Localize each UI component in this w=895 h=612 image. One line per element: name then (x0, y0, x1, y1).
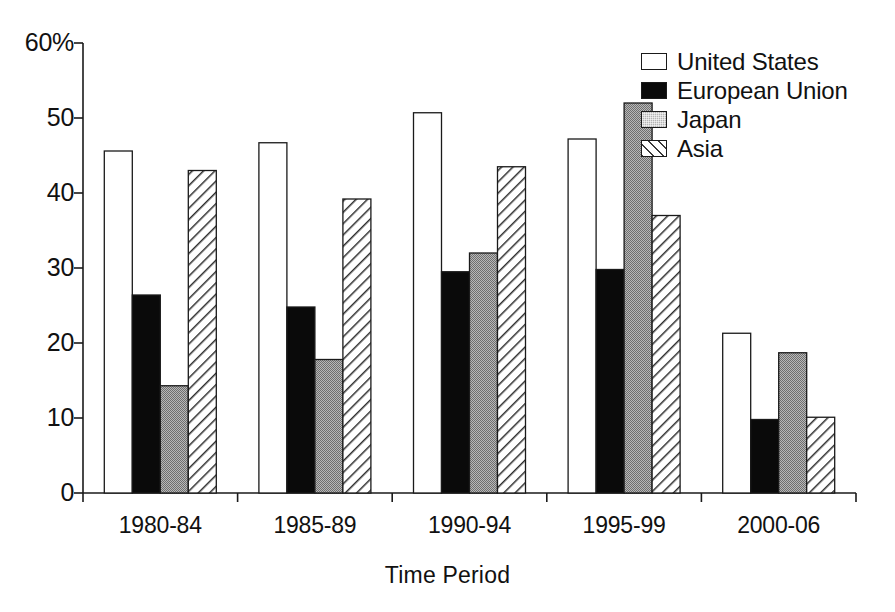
bar-asia-1995-99 (652, 216, 680, 494)
x-axis-tick-label: 1980-84 (83, 514, 238, 537)
bar-united-states-1985-89 (259, 143, 287, 493)
legend-label: Japan (677, 108, 741, 132)
bar-japan-1990-94 (470, 253, 498, 493)
legend-item-japan: Japan (641, 105, 891, 134)
chart-legend: United StatesEuropean UnionJapanAsia (641, 47, 891, 163)
bar-european-union-1980-84 (132, 295, 160, 493)
bar-chart: 60%50403020100 1980-841985-891990-941995… (0, 0, 895, 612)
legend-label: Asia (677, 137, 723, 161)
bar-asia-1985-89 (343, 199, 371, 493)
legend-swatch-solid-black (641, 82, 667, 99)
legend-swatch-diagonal-hatch (641, 140, 667, 157)
bar-united-states-1990-94 (414, 113, 442, 493)
bar-united-states-1995-99 (568, 139, 596, 493)
bar-japan-1985-89 (315, 360, 343, 494)
bar-united-states-2000-06 (723, 333, 751, 493)
bar-european-union-1990-94 (442, 272, 470, 493)
bar-european-union-2000-06 (751, 420, 779, 494)
x-axis-tick-label: 1985-89 (238, 514, 393, 537)
x-axis-tick-label: 1990-94 (392, 514, 547, 537)
bar-asia-2000-06 (807, 417, 835, 493)
legend-item-asia: Asia (641, 134, 891, 163)
x-axis-tick-label: 2000-06 (701, 514, 856, 537)
legend-item-european-union: European Union (641, 76, 891, 105)
x-axis-tick-label: 1995-99 (547, 514, 702, 537)
legend-item-united-states: United States (641, 47, 891, 76)
legend-swatch-white-outline (641, 53, 667, 70)
bar-european-union-1985-89 (287, 307, 315, 493)
x-axis-title: Time Period (0, 562, 895, 589)
bar-asia-1990-94 (498, 167, 526, 493)
legend-swatch-gray-stipple (641, 111, 667, 128)
bar-united-states-1980-84 (104, 151, 132, 493)
bar-japan-1980-84 (160, 386, 188, 493)
legend-label: European Union (677, 79, 848, 103)
bar-japan-2000-06 (779, 353, 807, 493)
bar-asia-1980-84 (188, 171, 216, 494)
legend-label: United States (677, 50, 818, 74)
bar-european-union-1995-99 (596, 270, 624, 494)
